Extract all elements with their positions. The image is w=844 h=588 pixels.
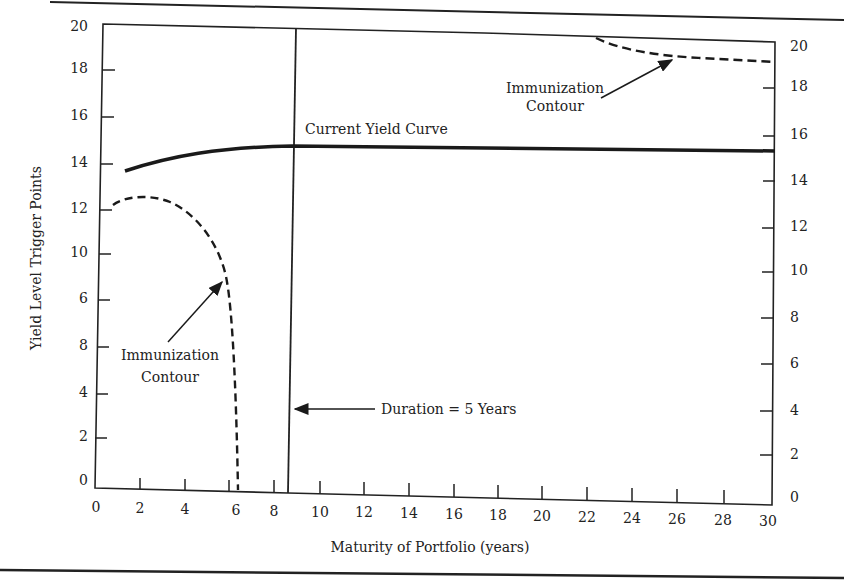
right-y-tick-label: 6 xyxy=(790,355,799,371)
right-y-tick-label: 0 xyxy=(790,489,799,505)
x-tick-label: 2 xyxy=(136,500,145,516)
x-tick-labels: 024681012141618202224262830 xyxy=(92,499,777,529)
x-tick-label: 18 xyxy=(489,507,507,523)
left-y-tick-label: 12 xyxy=(70,200,88,216)
x-tick-label: 10 xyxy=(311,504,329,520)
right-y-tick-label: 14 xyxy=(790,172,808,188)
right-y-tick-label: 12 xyxy=(790,218,808,234)
right-y-tick-label: 2 xyxy=(790,446,799,462)
immunization-contour-lower xyxy=(113,197,238,490)
x-tick-label: 20 xyxy=(533,508,551,524)
x-tick-label: 12 xyxy=(355,504,373,520)
plot-frame xyxy=(95,24,775,505)
x-tick-label: 24 xyxy=(623,510,641,526)
left-y-tick-label: 0 xyxy=(79,472,88,488)
yield-chart: Current Yield Curve Immunization Contour… xyxy=(0,0,844,588)
bottom-page-rule xyxy=(0,570,844,578)
upper-contour-label-line2: Contour xyxy=(526,98,584,114)
right-y-tick-label: 18 xyxy=(790,78,808,94)
left-y-tick-label: 8 xyxy=(79,337,88,353)
top-page-rule xyxy=(50,2,844,20)
right-y-tick-label: 20 xyxy=(790,38,808,54)
left-y-tick-label: 4 xyxy=(79,384,88,400)
left-y-tick-labels: 20181614121068420 xyxy=(70,18,88,488)
lower-contour-arrow xyxy=(168,282,222,342)
right-y-tick-labels: 20181614121086420 xyxy=(790,38,808,505)
upper-contour-arrow xyxy=(601,60,672,98)
right-y-tick-label: 10 xyxy=(790,262,808,278)
current-yield-curve-label: Current Yield Curve xyxy=(305,121,448,137)
x-tick-label: 8 xyxy=(270,503,279,519)
right-y-tick-label: 8 xyxy=(790,309,799,325)
x-tick-label: 22 xyxy=(578,509,596,525)
x-axis-title: Maturity of Portfolio (years) xyxy=(331,539,530,555)
x-tick-label: 26 xyxy=(668,511,686,527)
left-y-tick-label: 14 xyxy=(70,154,88,170)
left-y-tick-label: 16 xyxy=(70,107,88,123)
duration-label: Duration = 5 Years xyxy=(381,401,516,417)
x-tick-label: 4 xyxy=(181,501,190,517)
x-tick-label: 16 xyxy=(445,506,463,522)
lower-contour-label-line1: Immunization xyxy=(121,347,219,363)
lower-contour-label-line2: Contour xyxy=(141,369,199,385)
left-y-tick-label: 18 xyxy=(70,60,88,76)
x-tick-label: 30 xyxy=(759,513,777,529)
x-ticks xyxy=(140,478,724,503)
left-y-ticks xyxy=(95,70,115,438)
left-y-tick-label: 2 xyxy=(79,428,88,444)
left-y-tick-label: 20 xyxy=(70,18,88,34)
y-axis-title: Yield Level Trigger Points xyxy=(28,166,44,351)
left-y-tick-label: 6 xyxy=(79,290,88,306)
x-tick-label: 28 xyxy=(714,512,732,528)
x-tick-label: 0 xyxy=(92,499,101,515)
x-tick-label: 14 xyxy=(400,505,418,521)
duration-line xyxy=(288,28,296,493)
left-y-tick-label: 10 xyxy=(70,244,88,260)
x-tick-label: 6 xyxy=(232,502,241,518)
current-yield-curve xyxy=(125,146,775,171)
upper-contour-label-line1: Immunization xyxy=(506,80,604,96)
right-y-tick-label: 4 xyxy=(790,402,799,418)
right-y-tick-label: 16 xyxy=(790,126,808,142)
